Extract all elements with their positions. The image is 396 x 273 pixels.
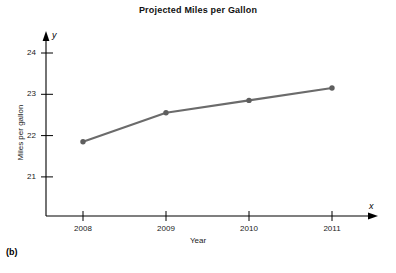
- x-axis-variable-label: x: [369, 201, 374, 211]
- x-tick-label-2009: 2009: [146, 224, 186, 233]
- x-tick-label-2008: 2008: [63, 224, 103, 233]
- x-axis-arrow-icon: [368, 213, 378, 220]
- data-point-marker: [246, 98, 251, 103]
- data-point-marker: [163, 110, 168, 115]
- x-tick-label-2010: 2010: [229, 224, 269, 233]
- x-axis-title: Year: [0, 236, 396, 245]
- data-point-marker: [80, 139, 85, 144]
- y-axis-arrow-icon: [43, 31, 50, 41]
- figure-panel: Projected Miles per Gallon 24 23 22 21 2…: [0, 0, 396, 273]
- data-series-line: [83, 88, 332, 142]
- y-tick-label-21: 21: [14, 172, 36, 181]
- y-axis-title: Miles per gallon: [16, 93, 25, 173]
- y-axis-variable-label: y: [52, 30, 57, 40]
- data-point-marker: [329, 85, 334, 90]
- panel-label: (b): [6, 247, 18, 257]
- y-tick-label-24: 24: [14, 48, 36, 57]
- x-tick-label-2011: 2011: [312, 224, 352, 233]
